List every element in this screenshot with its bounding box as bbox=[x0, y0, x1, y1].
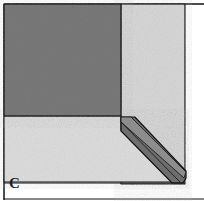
dark-square bbox=[4, 4, 121, 116]
corner-diagram bbox=[0, 0, 204, 201]
figure-label: C bbox=[9, 176, 20, 191]
